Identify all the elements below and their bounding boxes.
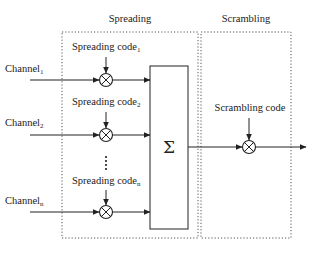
spreading-code-label-2: Spreading code2 [72, 96, 141, 109]
spreading-code-label-n: Spreading coden [72, 175, 141, 188]
spreading-scrambling-diagram: Spreading Scrambling Σ Channel1 Spreadin… [0, 0, 320, 253]
scrambling-region [201, 32, 291, 238]
spreading-section-title: Spreading [109, 13, 152, 24]
multiplier-icon [100, 74, 113, 87]
channel-label-n: Channeln [5, 195, 44, 208]
channel-row-n: Channeln Spreading coden [5, 175, 150, 219]
multiplier-icon [243, 141, 256, 154]
multiplier-icon [100, 206, 113, 219]
scrambling-code-label: Scrambling code [215, 102, 286, 113]
scrambling-section-title: Scrambling [222, 13, 271, 24]
spreading-code-label-1: Spreading code1 [72, 41, 141, 54]
channel-row-1: Channel1 Spreading code1 [5, 41, 150, 87]
ellipsis-icon [105, 156, 107, 170]
channel-label-1: Channel1 [5, 63, 44, 76]
scrambling-stage: Scrambling code [188, 102, 306, 154]
channel-label-2: Channel2 [5, 117, 44, 130]
multiplier-icon [100, 129, 113, 142]
channel-row-2: Channel2 Spreading code2 [5, 96, 150, 142]
sigma-icon: Σ [163, 137, 175, 157]
